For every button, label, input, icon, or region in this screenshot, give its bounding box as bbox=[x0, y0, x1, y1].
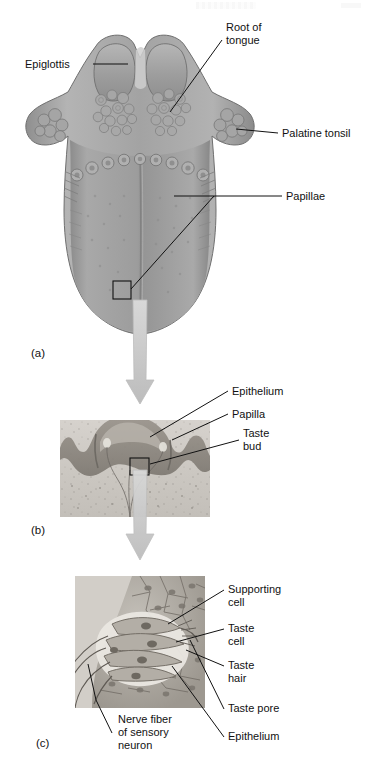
label-papillae: Papillae bbox=[286, 190, 325, 203]
label-nerve-fiber-line2: of sensory bbox=[118, 726, 169, 739]
panel-label-c: (c) bbox=[36, 737, 49, 749]
label-taste-hair-line1: Taste bbox=[228, 659, 254, 672]
figure-artwork bbox=[0, 0, 373, 761]
label-taste-hair-line2: hair bbox=[228, 672, 246, 685]
figure-tongue-taste-bud: Epiglottis Root of tongue Palatine tonsi… bbox=[0, 0, 373, 761]
label-supporting-cell-line2: cell bbox=[228, 596, 245, 609]
label-taste-bud-line1: Taste bbox=[243, 427, 269, 440]
label-papilla-b: Papilla bbox=[232, 408, 265, 421]
label-nerve-fiber-line1: Nerve fiber bbox=[118, 713, 172, 726]
panel-label-a: (a) bbox=[31, 347, 45, 359]
panel-label-b: (b) bbox=[31, 524, 45, 536]
label-taste-bud-line2: bud bbox=[243, 440, 261, 453]
label-epithelium-c: Epithelium bbox=[228, 730, 279, 743]
label-epiglottis: Epiglottis bbox=[25, 58, 70, 71]
label-epithelium-b: Epithelium bbox=[232, 385, 283, 398]
label-taste-pore: Taste pore bbox=[228, 702, 279, 715]
label-palatine-tonsil: Palatine tonsil bbox=[282, 127, 351, 140]
label-nerve-fiber-line3: neuron bbox=[118, 739, 152, 752]
panel-a-tongue-illustration bbox=[26, 35, 282, 404]
label-root-of-tongue-line2: tongue bbox=[226, 34, 260, 47]
label-taste-cell-line1: Taste bbox=[228, 622, 254, 635]
panel-b-papilla-section bbox=[60, 391, 239, 560]
label-supporting-cell-line1: Supporting bbox=[228, 583, 281, 596]
label-root-of-tongue-line1: Root of bbox=[226, 21, 261, 34]
label-taste-cell-line2: cell bbox=[228, 635, 245, 648]
